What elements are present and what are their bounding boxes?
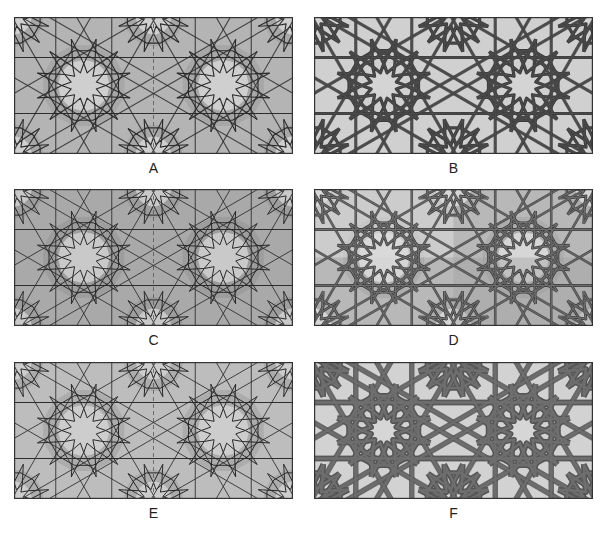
pattern-graphic xyxy=(314,362,593,499)
pattern-panel-f xyxy=(314,362,593,499)
panel-label-b: B xyxy=(314,160,593,176)
pattern-graphic xyxy=(314,189,593,326)
pattern-panel-b xyxy=(314,17,593,154)
panel-label-d: D xyxy=(314,332,593,348)
pattern-panel-a xyxy=(14,17,293,154)
panel-label-e: E xyxy=(14,505,293,521)
pattern-panel-e xyxy=(14,362,293,499)
panel-label-a: A xyxy=(14,160,293,176)
pattern-graphic xyxy=(14,17,293,154)
pattern-panel-d xyxy=(314,189,593,326)
pattern-graphic xyxy=(14,189,293,326)
panel-label-c: C xyxy=(14,332,293,348)
panel-label-f: F xyxy=(314,505,593,521)
pattern-panel-c xyxy=(14,189,293,326)
pattern-graphic xyxy=(314,17,593,154)
pattern-graphic xyxy=(14,362,293,499)
